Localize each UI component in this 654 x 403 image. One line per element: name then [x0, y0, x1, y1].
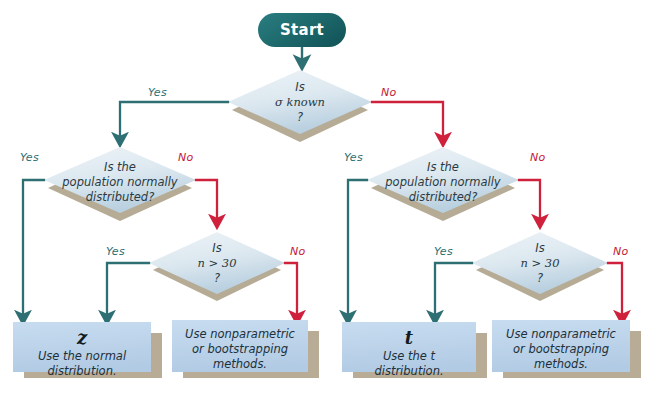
decision-normal-right-line2: population normally [378, 175, 508, 190]
result-z-line2: distribution. [13, 364, 151, 379]
edge-normal-left-yes [23, 180, 44, 318]
result-np-left-line3: methods. [172, 357, 308, 372]
decision-population-normal-right-text: Is the population normally distributed? [378, 160, 508, 205]
decision-n30-right-line3: ? [485, 271, 595, 286]
decision-n30-left-line3: ? [162, 271, 272, 286]
result-z-line1: Use the normal [13, 349, 151, 364]
result-np-left-line1: Use nonparametric [172, 327, 308, 342]
edge-n30-right-no [608, 263, 622, 318]
decision-normal-right-line1: Is the [378, 160, 508, 175]
decision-n-gt-30-left-text: Is n > 30 ? [162, 241, 272, 286]
flowchart-canvas: Start Is σ known ? Is the population nor… [0, 0, 654, 403]
decision-sigma-known-line3: ? [240, 110, 360, 125]
edge-n30-right-yes [435, 263, 472, 318]
result-text-nonparametric-right: Use nonparametric or bootstrapping metho… [492, 327, 630, 373]
result-np-left-line2: or bootstrapping [172, 342, 308, 357]
decision-sigma-known-text: Is σ known ? [240, 80, 360, 125]
result-np-right-line3: methods. [492, 357, 630, 372]
decision-n30-left-line1: Is [162, 241, 272, 256]
edge-n30-left-no [285, 263, 297, 318]
result-text-use-t: t Use the t distribution. [342, 328, 476, 379]
decision-normal-right-line3: distributed? [378, 190, 508, 205]
result-text-nonparametric-left: Use nonparametric or bootstrapping metho… [172, 327, 308, 373]
result-t-line1: Use the t [342, 349, 476, 364]
decision-n30-left-line2: n > 30 [162, 256, 272, 271]
result-t-line2: distribution. [342, 364, 476, 379]
edge-normal-right-no [519, 180, 540, 222]
decision-sigma-known-line1: Is [240, 80, 360, 95]
decision-n30-right-line2: n > 30 [485, 256, 595, 271]
decision-normal-left-line1: Is the [55, 160, 185, 175]
edge-sigma-no [372, 102, 443, 140]
decision-n-gt-30-right-text: Is n > 30 ? [485, 241, 595, 286]
result-text-use-z: z Use the normal distribution. [13, 328, 151, 379]
decision-normal-left-line3: distributed? [55, 190, 185, 205]
decision-normal-left-line2: population normally [55, 175, 185, 190]
start-label: Start [258, 21, 346, 39]
edge-n30-left-yes [107, 263, 149, 318]
result-np-right-line2: or bootstrapping [492, 342, 630, 357]
result-np-right-line1: Use nonparametric [492, 327, 630, 342]
result-symbol-z: z [13, 328, 151, 348]
decision-n30-right-line1: Is [485, 241, 595, 256]
edge-normal-right-yes [348, 180, 367, 318]
result-symbol-t: t [342, 328, 476, 348]
edge-sigma-yes [120, 102, 228, 140]
decision-population-normal-left-text: Is the population normally distributed? [55, 160, 185, 205]
decision-sigma-known-line2: σ known [240, 95, 360, 110]
edge-normal-left-no [196, 180, 217, 222]
